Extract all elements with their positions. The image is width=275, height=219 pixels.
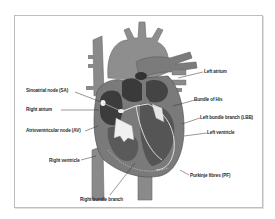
label-right-ventricle: Right ventricle [49,157,80,164]
descending-aorta [138,176,152,200]
label-av-node: Atrioventricular node (AV) [26,127,81,134]
label-left-bundle-branch: Left bundle branch (LBB) [200,114,253,121]
label-right-bundle-branch: Right bundle branch [80,196,123,203]
label-bundle-of-his: Bundle of His [194,96,222,103]
left-atrium-chamber [122,78,142,102]
label-sa-node: Sinoatrial node (SA) [26,87,68,94]
label-left-atrium: Left atrium [204,68,227,75]
label-left-ventricle: Left ventricle [207,129,234,136]
label-purkinje-fibres: Purkinje fibres (PF) [190,172,230,179]
label-right-atrium: Right atrium [26,106,52,113]
